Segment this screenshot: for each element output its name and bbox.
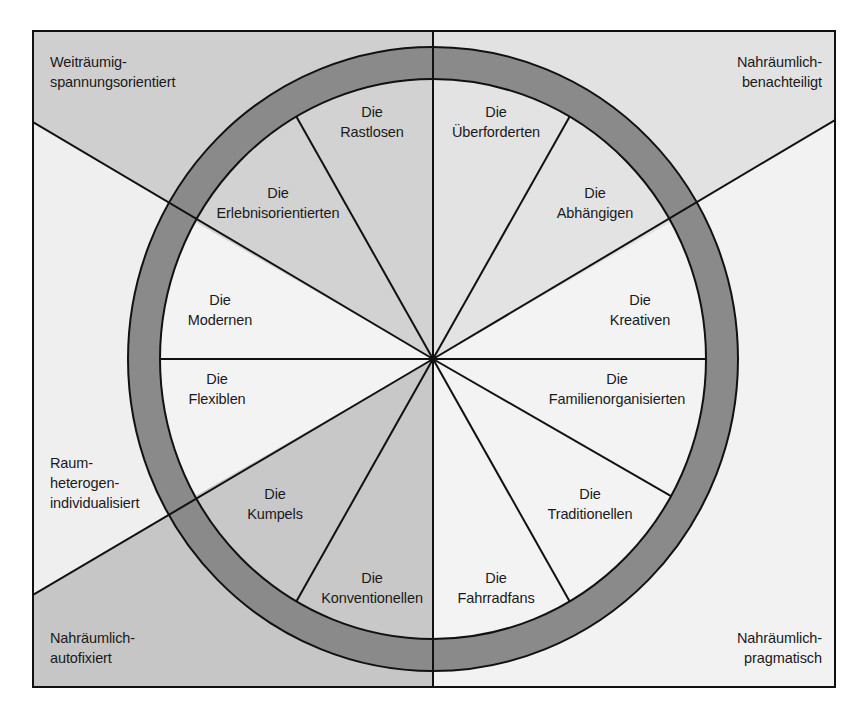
segment-fahrradfans: Die Fahrradfans (457, 568, 534, 608)
segment-traditionellen: Die Traditionellen (547, 484, 632, 524)
segment-rastlosen: Die Rastlosen (340, 102, 404, 142)
segment-abhaengigen: Die Abhängigen (557, 183, 633, 223)
segment-ueberforderten: Die Überforderten (452, 102, 540, 142)
segment-erlebnisorientierten: Die Erlebnisorientierten (217, 183, 340, 223)
segment-kumpels: Die Kumpels (247, 484, 303, 524)
mobility-types-diagram (0, 0, 861, 721)
outer-label-top-left: Weiträumig- spannungsorientiert (50, 52, 175, 92)
segment-flexiblen: Die Flexiblen (188, 369, 245, 409)
outer-label-middle-left: Raum- heterogen- individualisiert (50, 453, 139, 513)
outer-label-bottom-right: Nahräumlich- pragmatisch (672, 628, 822, 668)
outer-label-top-right-text: Nahräumlich- benachteiligt (672, 52, 822, 92)
outer-label-bottom-left: Nahräumlich- autofixiert (50, 628, 135, 668)
segment-kreativen: Die Kreativen (610, 290, 670, 330)
segment-konventionellen: Die Konventionellen (321, 568, 423, 608)
segment-modernen: Die Modernen (188, 290, 253, 330)
segment-familienorganisierten: Die Familienorganisierten (549, 369, 686, 409)
